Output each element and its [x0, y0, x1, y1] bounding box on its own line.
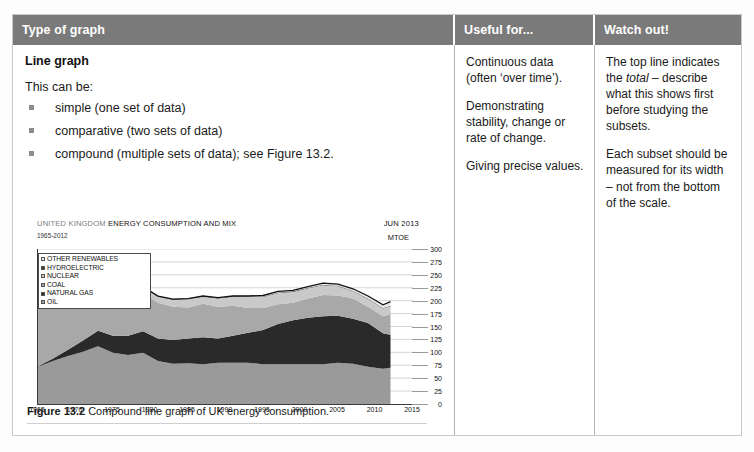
legend-item: NUCLEAR	[41, 272, 147, 281]
chart-title: UNITED KINGDOM ENERGY CONSUMPTION AND MI…	[37, 219, 236, 228]
bullet-text: simple (one set of data)	[55, 101, 186, 115]
y-axis-tick	[412, 314, 428, 315]
y-axis-tick-label: 125	[430, 336, 442, 343]
legend-swatch-icon	[41, 266, 45, 270]
y-axis-ticks: 3002752502252001751501251007550250	[412, 249, 440, 404]
y-axis-tick	[412, 391, 428, 392]
legend-label: COAL	[47, 281, 65, 290]
chart-subtitle: 1965-2012	[37, 232, 68, 239]
legend-label: NUCLEAR	[47, 272, 79, 281]
caption-divider	[27, 423, 427, 424]
legend-swatch-icon	[41, 300, 45, 304]
legend-label: NATURAL GAS	[47, 289, 93, 298]
y-axis-tick	[412, 262, 428, 263]
table-header-row: Type of graph Useful for... Watch out!	[13, 15, 741, 45]
table-body-row: Line graph This can be: simple (one set …	[13, 45, 741, 435]
legend-item: OTHER RENEWABLES	[41, 255, 147, 264]
graph-types-table: Type of graph Useful for... Watch out! L…	[12, 14, 742, 436]
watch-out-emphasis: total	[626, 71, 649, 85]
legend-item: COAL	[41, 281, 147, 290]
legend-swatch-icon	[41, 283, 45, 287]
chart-header: UNITED KINGDOM ENERGY CONSUMPTION AND MI…	[27, 219, 441, 249]
page-root: Type of graph Useful for... Watch out! L…	[0, 0, 754, 452]
chart-legend: OTHER RENEWABLESHYDROELECTRICNUCLEARCOAL…	[38, 253, 151, 309]
bullet-text: comparative (two sets of data)	[55, 124, 222, 138]
column-header-useful-for: Useful for...	[455, 15, 595, 45]
bullet-icon	[29, 105, 34, 110]
useful-for-paragraph: Giving precise values.	[466, 158, 584, 174]
list-item: compound (multiple sets of data); see Fi…	[25, 146, 442, 162]
legend-item: NATURAL GAS	[41, 289, 147, 298]
y-axis-tick-label: 300	[430, 246, 442, 253]
y-axis-tick-label: 275	[430, 258, 442, 265]
bullet-icon	[29, 128, 34, 133]
watch-out-paragraph: Each subset should be measured for its w…	[606, 146, 731, 210]
y-axis-tick-label: 75	[434, 362, 442, 369]
y-axis-tick	[412, 249, 428, 250]
legend-item: OIL	[41, 298, 147, 307]
energy-chart: UNITED KINGDOM ENERGY CONSUMPTION AND MI…	[27, 219, 441, 431]
chart-unit-label: MTOE	[388, 233, 409, 242]
figure-caption: Figure 13.2 Compound line graph of UK en…	[27, 405, 427, 417]
chart-date-label: JUN 2013	[384, 219, 419, 228]
y-axis-tick	[412, 327, 428, 328]
line-graph-bullet-list: simple (one set of data) comparative (tw…	[25, 100, 442, 162]
y-axis-tick-label: 250	[430, 271, 442, 278]
column-header-watch-out: Watch out!	[595, 15, 741, 45]
useful-for-paragraph: Continuous data (often ‘over time’).	[466, 54, 584, 86]
line-graph-description: Line graph This can be: simple (one set …	[13, 45, 454, 162]
chart-title-main: ENERGY CONSUMPTION AND MIX	[108, 219, 236, 228]
y-axis-tick	[412, 365, 428, 366]
y-axis-tick-label: 50	[434, 375, 442, 382]
cell-type-of-graph: Line graph This can be: simple (one set …	[13, 45, 455, 435]
line-graph-title: Line graph	[25, 54, 442, 68]
column-header-type-of-graph: Type of graph	[13, 15, 455, 45]
y-axis-tick	[412, 288, 428, 289]
y-axis-tick-label: 175	[430, 310, 442, 317]
y-axis-tick	[412, 339, 428, 340]
figure-caption-label: Figure 13.2	[27, 405, 85, 417]
list-item: simple (one set of data)	[25, 100, 442, 116]
y-axis-tick-label: 100	[430, 349, 442, 356]
legend-label: HYDROELECTRIC	[47, 264, 104, 273]
useful-for-paragraph: Demonstrating stability, change or rate …	[466, 98, 584, 146]
y-axis-tick-label: 225	[430, 284, 442, 291]
y-axis-tick	[412, 352, 428, 353]
legend-label: OIL	[47, 298, 58, 307]
list-item: comparative (two sets of data)	[25, 123, 442, 139]
line-graph-lead: This can be:	[25, 80, 442, 94]
cell-watch-out: The top line indicates the total – descr…	[595, 45, 741, 435]
figure-caption-text: Compound line graph of UK energy consump…	[85, 405, 329, 417]
y-axis-tick-label: 25	[434, 388, 442, 395]
legend-swatch-icon	[41, 257, 45, 261]
legend-swatch-icon	[41, 274, 45, 278]
legend-item: HYDROELECTRIC	[41, 264, 147, 273]
cell-useful-for: Continuous data (often ‘over time’). Dem…	[455, 45, 595, 435]
figure-13-2: UNITED KINGDOM ENERGY CONSUMPTION AND MI…	[13, 205, 455, 435]
y-axis-tick-label: 200	[430, 297, 442, 304]
legend-swatch-icon	[41, 292, 45, 296]
legend-label: OTHER RENEWABLES	[47, 255, 118, 264]
bullet-text: compound (multiple sets of data); see Fi…	[55, 147, 334, 161]
y-axis-tick	[412, 378, 428, 379]
bullet-icon	[29, 151, 34, 156]
chart-title-country: UNITED KINGDOM	[37, 219, 108, 228]
y-axis-tick	[412, 275, 428, 276]
watch-out-paragraph: The top line indicates the total – descr…	[606, 54, 731, 134]
y-axis-tick-label: 150	[430, 323, 442, 330]
y-axis-tick	[412, 301, 428, 302]
